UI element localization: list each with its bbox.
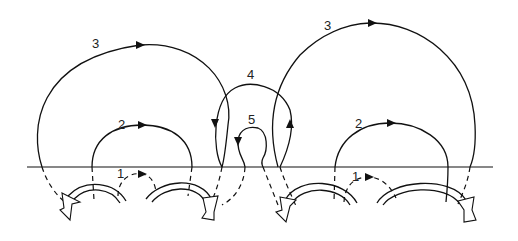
hollow-arrow-left-b [146,183,218,220]
arrow-head-icon [138,170,147,178]
loop-2-left-below [92,167,94,200]
loop-3-left [37,45,228,167]
loop-4-label: 4 [247,68,254,81]
loop-diagram: 3 2 1 4 5 3 2 1 [0,0,518,241]
loop-1-right-label: 1 [352,170,359,183]
loop-2-right-label: 2 [355,117,362,130]
loop-1-left-label: 1 [117,167,124,180]
arrow-head-icon [211,119,219,128]
loop-2-right-below [334,167,335,202]
loop-5 [238,127,266,167]
loop-2-left [92,125,192,167]
arrow-head-icon [365,173,374,181]
arrow-head-icon [234,137,242,146]
loop-5-below-right [263,167,278,205]
loop-3-right-label: 3 [324,19,331,32]
loop-2-left-label: 2 [118,118,125,131]
arrow-head-icon [286,119,294,128]
arrow-head-icon [387,119,396,127]
arrow-head-icon [138,121,147,129]
hollow-arrow-right-a [276,183,357,222]
hollow-arrow-right-b [377,183,476,222]
loop-5-below [222,167,245,205]
loop-2-left-below-right [188,167,192,196]
loop-3-left-label: 3 [92,37,99,50]
loop-5-label: 5 [248,113,255,126]
diagram-svg [0,0,518,241]
hollow-arrow-left-a [60,184,126,220]
arrow-head-icon [368,19,377,27]
loop-3-right [273,23,476,167]
arrow-head-icon [136,41,145,49]
